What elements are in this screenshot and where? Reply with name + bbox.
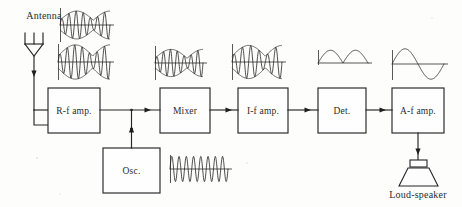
loudspeaker-symbol[interactable] — [399, 160, 438, 186]
oscillator-to-mixer-wire — [129, 110, 134, 148]
local-oscillator-sine-wave — [170, 155, 232, 183]
intermediate-frequency-modulated-signal — [232, 44, 286, 80]
antenna-symbol — [25, 33, 43, 110]
block-if-amp[interactable]: I-f amp. — [238, 88, 288, 133]
detected-rectified-audio-signal — [318, 50, 372, 65]
block-label-mixer: Mixer — [173, 106, 198, 116]
block-label-af-amp: A-f amp. — [400, 106, 436, 116]
mixer-input-modulated-signal-trace — [155, 49, 203, 76]
modulated-rf-signal-small-trace — [60, 11, 110, 39]
mixer-input-modulated-signal — [155, 46, 207, 80]
amplified-modulated-rf-signal-trace — [58, 45, 110, 79]
af-to-speaker-wire — [415, 133, 420, 160]
amplified-audio-sine-wave — [392, 49, 448, 80]
detector-to-af-wire — [366, 107, 392, 112]
block-osc[interactable]: Osc. — [103, 148, 160, 193]
block-label-if-amp: I-f amp. — [247, 106, 279, 116]
receiver-block-diagram: Antenna R-f amp. Mixer I-f amp. Det. A-f… — [0, 0, 462, 207]
diagram-canvas: Antenna R-f amp. Mixer I-f amp. Det. A-f… — [0, 0, 462, 207]
modulated-rf-signal-small — [60, 8, 114, 42]
block-mixer[interactable]: Mixer — [160, 88, 210, 133]
amplified-modulated-rf-signal — [58, 44, 114, 80]
block-label-det: Det. — [334, 106, 351, 116]
block-label-osc: Osc. — [123, 166, 141, 176]
antenna-label: Antenna — [26, 10, 62, 21]
if-to-detector-wire — [288, 107, 318, 112]
rf-to-mixer-wire — [100, 107, 160, 112]
block-label-rf-amp: R-f amp. — [56, 106, 91, 116]
block-det[interactable]: Det. — [318, 88, 366, 133]
loudspeaker-label: Loud-speaker — [389, 189, 447, 200]
mixer-to-if-wire — [210, 107, 238, 112]
antenna-feed-line — [34, 110, 48, 125]
detected-rectified-audio-signal-trace — [318, 50, 368, 63]
block-rf-amp[interactable]: R-f amp. — [48, 88, 100, 133]
block-af-amp[interactable]: A-f amp. — [392, 88, 444, 133]
